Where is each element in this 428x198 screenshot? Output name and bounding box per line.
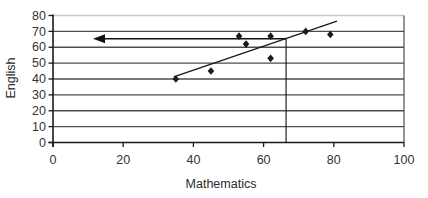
- x-tick-label: 80: [327, 153, 341, 167]
- x-tick-label: 20: [116, 153, 130, 167]
- y-tick-label: 20: [32, 104, 46, 118]
- y-tick-label: 10: [32, 120, 46, 134]
- readoff-arrowhead: [93, 34, 105, 43]
- y-tick-label: 40: [32, 72, 46, 86]
- scatter-chart-figure: 01020304050607080020406080100 Mathematic…: [0, 0, 428, 198]
- x-tick-label: 100: [394, 153, 415, 167]
- y-tick-label: 0: [39, 136, 46, 150]
- y-tick-label: 60: [32, 40, 46, 54]
- y-tick-label: 30: [32, 88, 46, 102]
- y-tick-label: 70: [32, 25, 46, 39]
- x-axis-title: Mathematics: [186, 177, 257, 191]
- x-tick-label: 0: [50, 153, 57, 167]
- data-point: [208, 67, 215, 75]
- x-tick-label: 60: [257, 153, 271, 167]
- data-point: [302, 28, 309, 36]
- line-of-best-fit: [174, 21, 337, 77]
- data-point: [267, 55, 274, 63]
- y-axis-title: English: [4, 58, 18, 99]
- y-tick-label: 50: [32, 56, 46, 70]
- y-tick-label: 80: [32, 9, 46, 23]
- chart-canvas: 01020304050607080020406080100: [0, 0, 428, 198]
- x-tick-label: 40: [186, 153, 200, 167]
